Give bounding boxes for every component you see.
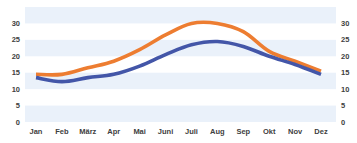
- y-tick-label-right: 30: [341, 19, 349, 28]
- x-tick-label: März: [79, 127, 96, 136]
- x-tick-label: Nov: [288, 127, 303, 136]
- x-tick-label: Okt: [263, 127, 276, 136]
- x-axis: JanFebMärzAprMaiJuniJuliAugSepOktNovDez: [30, 127, 328, 136]
- x-tick-label: Sep: [236, 127, 250, 136]
- grid-band: [25, 106, 336, 122]
- x-tick-label: Mai: [133, 127, 146, 136]
- y-tick-label-right: 0: [341, 118, 345, 127]
- x-tick-label: Apr: [107, 127, 120, 136]
- y-tick-label-left: 20: [12, 52, 20, 61]
- x-tick-label: Feb: [55, 127, 69, 136]
- y-tick-label-right: 25: [341, 35, 349, 44]
- grid-band: [25, 7, 336, 23]
- y-tick-label-left: 5: [16, 101, 20, 110]
- x-tick-label: Juli: [185, 127, 198, 136]
- y-tick-label-left: 15: [12, 68, 20, 77]
- y-tick-label-left: 30: [12, 19, 20, 28]
- x-tick-label: Juni: [158, 127, 173, 136]
- x-tick-label: Jan: [30, 127, 43, 136]
- x-tick-label: Aug: [210, 127, 225, 136]
- y-tick-label-right: 20: [341, 52, 349, 61]
- y-axis-left: 051015202530: [12, 19, 20, 127]
- y-tick-label-right: 10: [341, 85, 349, 94]
- y-axis-right: 051015202530: [341, 19, 349, 127]
- x-tick-label: Dez: [314, 127, 328, 136]
- y-tick-label-left: 25: [12, 35, 20, 44]
- y-tick-label-left: 0: [16, 118, 20, 127]
- y-tick-label-right: 15: [341, 68, 349, 77]
- line-chart: 051015202530 051015202530 JanFebMärzAprM…: [0, 0, 357, 143]
- y-tick-label-right: 5: [341, 101, 345, 110]
- y-tick-label-left: 10: [12, 85, 20, 94]
- background-bands: [25, 7, 336, 122]
